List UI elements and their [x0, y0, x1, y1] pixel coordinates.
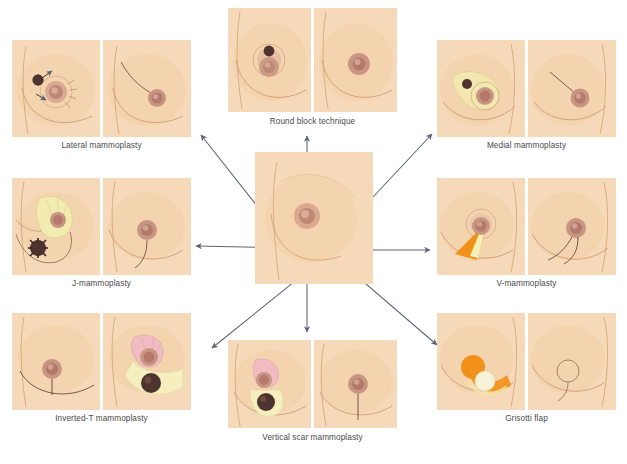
tumor-marker [141, 373, 161, 393]
lateral-postop-figure [103, 40, 191, 137]
tumor-marker [462, 79, 472, 89]
grisotti-postop-figure [528, 313, 616, 410]
vertical-scar-postop-figure [314, 340, 397, 428]
panel-center [255, 152, 373, 284]
caption-grisotti: Grisotti flap [437, 415, 616, 423]
round-block-preop-figure [228, 8, 311, 112]
figure-pair-v-mammoplasty [437, 178, 616, 275]
caption-lateral: Lateral mammoplasty [12, 142, 191, 150]
figure-pair-j-mammoplasty [12, 178, 191, 275]
skin-island [475, 371, 495, 391]
figure-pair-round-block [228, 8, 397, 112]
figure-pair-grisotti [437, 313, 616, 410]
caption-medial: Medial mammoplasty [437, 142, 616, 150]
oncoplastic-techniques-figure: Lateral mammoplasty [0, 0, 627, 464]
caption-j-mammoplasty: J-mammoplasty [12, 280, 191, 288]
tumor-marker [264, 46, 275, 57]
inverted-t-postop-figure [12, 313, 100, 410]
medial-postop-figure [528, 40, 616, 137]
caption-round-block: Round block technique [228, 118, 397, 126]
figure-pair-lateral [12, 40, 191, 137]
v-postop-figure [528, 178, 616, 275]
lateral-preop-figure [12, 40, 100, 137]
round-block-postop-figure [314, 8, 397, 112]
figure-pair-medial [437, 40, 616, 137]
caption-v-mammoplasty: V-mammoplasty [437, 280, 616, 288]
medial-preop-figure [437, 40, 525, 137]
tumor-marker [28, 238, 48, 258]
j-preop-figure [12, 178, 100, 275]
tumor-marker [33, 75, 43, 85]
figure-pair-inverted-t [12, 313, 191, 410]
tumor-marker [257, 393, 275, 411]
caption-inverted-t: Inverted-T mammoplasty [12, 415, 191, 423]
vertical-scar-preop-figure [228, 340, 311, 428]
j-postop-figure [103, 178, 191, 275]
figure-pair-vertical-scar [228, 340, 397, 428]
inverted-t-preop-figure [103, 313, 191, 410]
central-breast-figure [255, 152, 373, 284]
v-preop-figure [437, 178, 525, 275]
caption-vertical-scar: Vertical scar mammoplasty [228, 434, 397, 442]
grisotti-preop-figure [437, 313, 525, 410]
